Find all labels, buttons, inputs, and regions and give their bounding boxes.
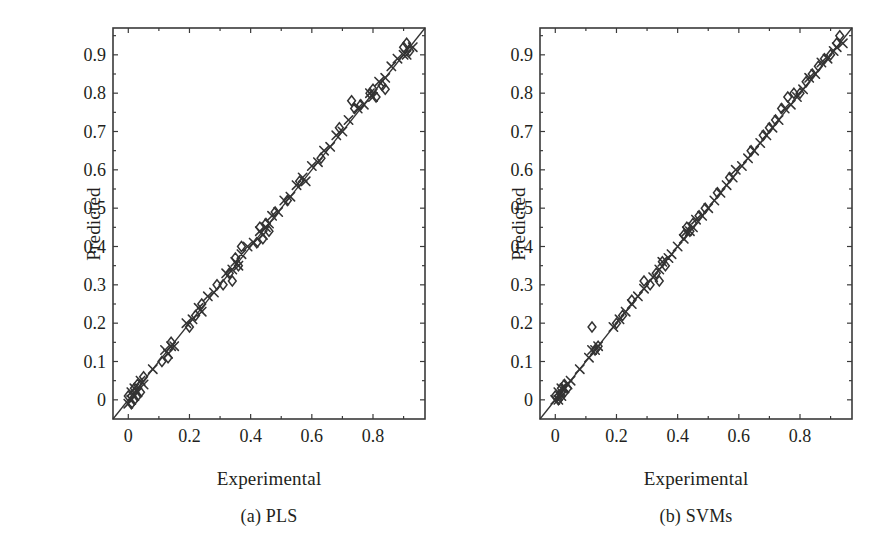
y-tick-label-svms: 0.6 [511, 159, 534, 180]
plot-area-svms: Predicted Experimental (b) SVMs 00.10.20… [540, 28, 852, 419]
x-axis-label-svms: Experimental [540, 468, 852, 490]
x-tick-label-svms: 0.6 [728, 426, 751, 447]
data-points-group [551, 31, 847, 405]
x-tick-label-pls: 0.6 [301, 426, 324, 447]
figure-two-panel-scatter: Predicted Experimental (a) PLS 00.10.20.… [0, 0, 888, 546]
y-tick-label-svms: 0.2 [511, 313, 534, 334]
scatter-plot-svms [540, 28, 852, 419]
data-point-cross [149, 365, 157, 373]
x-axis-label-pls: Experimental [113, 468, 425, 490]
y-tick-label-pls: 0.2 [84, 313, 107, 334]
data-point-cross [667, 250, 675, 258]
panel-pls: Predicted Experimental (a) PLS 00.10.20.… [0, 0, 444, 546]
y-tick-label-svms: 0.9 [511, 44, 534, 65]
y-tick-label-svms: 0.4 [511, 236, 534, 257]
y-tick-label-svms: 0.7 [511, 121, 534, 142]
y-tick-label-svms: 0.5 [511, 198, 534, 219]
y-tick-label-svms: 0 [524, 389, 533, 410]
x-tick-label-svms: 0.8 [789, 426, 812, 447]
y-tick-label-pls: 0.9 [84, 44, 107, 65]
y-tick-label-pls: 0 [97, 389, 106, 410]
data-point-cross [585, 353, 593, 361]
x-tick-label-pls: 0.2 [178, 426, 201, 447]
y-tick-label-svms: 0.8 [511, 83, 534, 104]
x-tick-label-pls: 0.8 [362, 426, 385, 447]
subcaption-pls: (a) PLS [113, 506, 425, 527]
panel-svms: Predicted Experimental (b) SVMs 00.10.20… [444, 0, 888, 546]
y-tick-label-pls: 0.3 [84, 274, 107, 295]
y-tick-label-pls: 0.6 [84, 159, 107, 180]
x-tick-label-svms: 0 [551, 426, 560, 447]
data-point-cross [673, 242, 681, 250]
plot-area-pls: Predicted Experimental (a) PLS 00.10.20.… [113, 28, 425, 419]
y-tick-label-svms: 0.1 [511, 351, 534, 372]
x-tick-label-svms: 0.2 [605, 426, 628, 447]
x-tick-label-svms: 0.4 [666, 426, 689, 447]
x-tick-label-pls: 0.4 [239, 426, 262, 447]
y-tick-label-pls: 0.4 [84, 236, 107, 257]
x-tick-label-pls: 0 [124, 426, 133, 447]
data-points-group [124, 38, 417, 408]
data-point-cross [576, 365, 584, 373]
y-tick-label-pls: 0.7 [84, 121, 107, 142]
y-tick-label-pls: 0.8 [84, 83, 107, 104]
data-point-diamond [588, 322, 596, 332]
y-tick-label-pls: 0.5 [84, 198, 107, 219]
subcaption-svms: (b) SVMs [540, 506, 852, 527]
y-tick-label-pls: 0.1 [84, 351, 107, 372]
scatter-plot-pls [113, 28, 425, 419]
y-tick-label-svms: 0.3 [511, 274, 534, 295]
